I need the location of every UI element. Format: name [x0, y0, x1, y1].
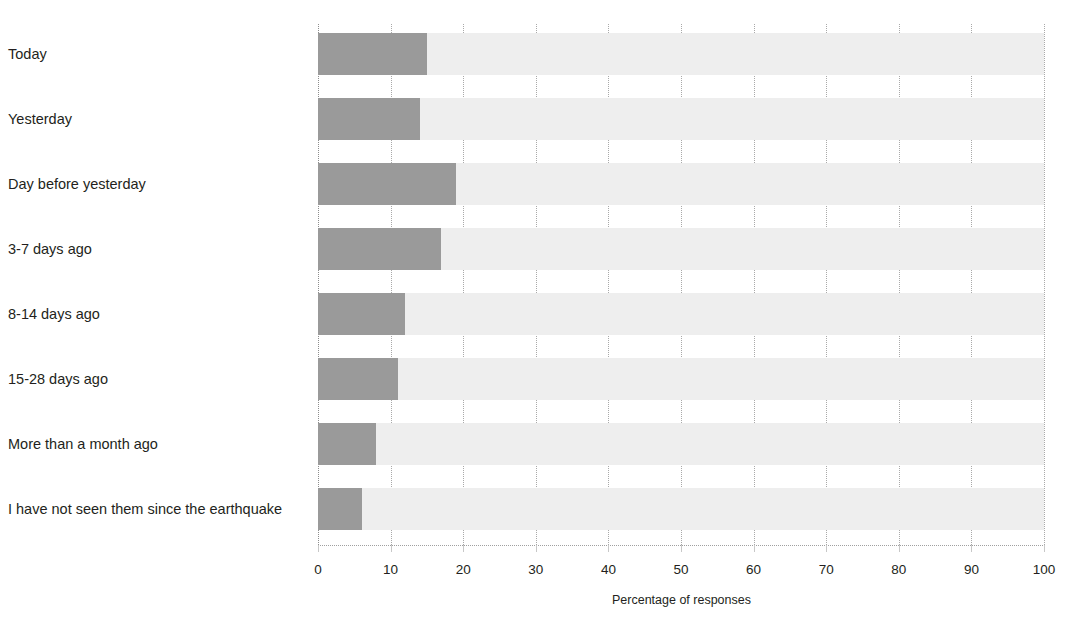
bar-track [318, 488, 1044, 530]
bar-fill[interactable] [318, 423, 376, 465]
bar-fill[interactable] [318, 488, 362, 530]
x-tick-label: 10 [361, 562, 421, 577]
x-tick-label: 50 [651, 562, 711, 577]
category-label: I have not seen them since the earthquak… [8, 501, 308, 518]
x-tick-20 [463, 545, 464, 552]
bar-fill[interactable] [318, 293, 405, 335]
bar-fill[interactable] [318, 33, 427, 75]
category-label: 15-28 days ago [8, 371, 308, 388]
category-label: Yesterday [8, 111, 308, 128]
category-label: 3-7 days ago [8, 241, 308, 258]
bar-row [318, 98, 1044, 140]
bar-fill[interactable] [318, 163, 456, 205]
bar-fill[interactable] [318, 358, 398, 400]
category-label: Day before yesterday [8, 176, 308, 193]
bar-row [318, 358, 1044, 400]
x-tick-10 [391, 545, 392, 552]
gridline-100 [1044, 24, 1045, 545]
bar-row [318, 163, 1044, 205]
plot-area [318, 24, 1044, 545]
bar-track [318, 423, 1044, 465]
bar-row [318, 228, 1044, 270]
x-tick-80 [899, 545, 900, 552]
x-tick-label: 60 [724, 562, 784, 577]
x-tick-label: 40 [578, 562, 638, 577]
x-tick-30 [536, 545, 537, 552]
bar-track [318, 293, 1044, 335]
x-axis-title: Percentage of responses [318, 593, 1045, 607]
bar-track [318, 358, 1044, 400]
x-tick-90 [971, 545, 972, 552]
x-tick-label: 20 [433, 562, 493, 577]
x-tick-60 [754, 545, 755, 552]
bar-row [318, 488, 1044, 530]
page-title [8, 0, 1058, 5]
x-tick-label: 0 [288, 562, 348, 577]
x-tick-label: 30 [506, 562, 566, 577]
bar-track [318, 98, 1044, 140]
x-tick-label: 90 [941, 562, 1001, 577]
category-label: More than a month ago [8, 436, 308, 453]
category-label: 8-14 days ago [8, 306, 308, 323]
x-tick-100 [1044, 545, 1045, 552]
bar-row [318, 293, 1044, 335]
x-tick-label: 100 [1014, 562, 1070, 577]
x-tick-70 [826, 545, 827, 552]
category-label: Today [8, 46, 308, 63]
bar-row [318, 33, 1044, 75]
x-tick-label: 70 [796, 562, 856, 577]
bar-fill[interactable] [318, 228, 441, 270]
x-tick-50 [681, 545, 682, 552]
x-tick-40 [608, 545, 609, 552]
bar-fill[interactable] [318, 98, 420, 140]
x-tick-0 [318, 545, 319, 552]
bar-row [318, 423, 1044, 465]
x-tick-label: 80 [869, 562, 929, 577]
bar-track [318, 33, 1044, 75]
